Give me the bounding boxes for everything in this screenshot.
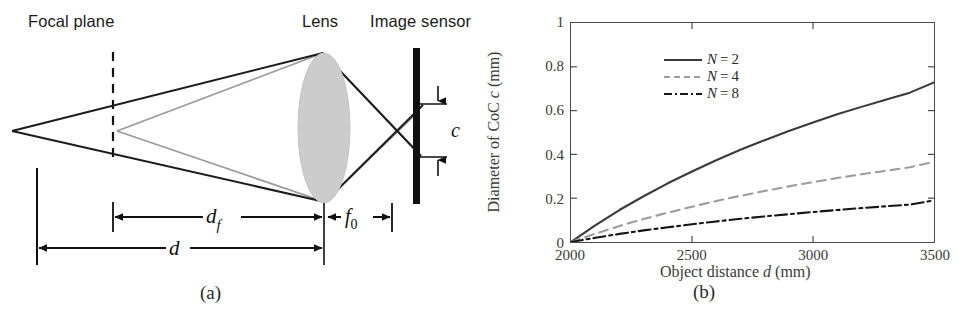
coc-label: c (451, 119, 460, 141)
optics-diagram-svg: df f0 d c (0, 0, 484, 317)
x-tick-label: 3000 (798, 247, 828, 264)
data-series-group (571, 82, 934, 242)
legend-swatch-dashdot (663, 88, 703, 100)
legend-label-n4: N = 4 (707, 68, 739, 85)
legend-swatch-solid (663, 54, 703, 66)
y-tick-label: 0.8 (545, 58, 564, 75)
x-tick-label: 3500 (920, 247, 950, 264)
legend-label-n8: N = 8 (707, 85, 739, 102)
y-axis-title: Diameter of CoC c (mm) (485, 52, 503, 213)
plot-frame: N = 2 N = 4 N = 8 (570, 22, 935, 243)
legend-item-n2: N = 2 (663, 51, 775, 68)
legend-item-n8: N = 8 (663, 85, 775, 102)
legend-label-n2: N = 2 (707, 51, 739, 68)
y-tick-label: 0 (557, 235, 565, 252)
gray-ray-bundle (117, 53, 418, 202)
panel-a-optics-diagram: Focal plane Lens Image sensor (0, 0, 484, 317)
y-tick-label: 1 (557, 14, 565, 31)
panel-b-caption: (b) (693, 281, 715, 303)
image-sensor-bar (413, 48, 420, 204)
panel-a-caption: (a) (200, 282, 221, 304)
lens-element (298, 53, 350, 203)
y-tick-label: 0.2 (545, 190, 564, 207)
figure-container: Focal plane Lens Image sensor (0, 0, 967, 317)
x-tick-label: 2500 (677, 247, 707, 264)
chart-legend: N = 2 N = 4 N = 8 (663, 49, 775, 102)
y-tick-label: 0.4 (545, 146, 564, 163)
y-tick-label: 0.6 (545, 102, 564, 119)
series-line-4 (571, 162, 934, 242)
legend-swatch-dashed (663, 71, 703, 83)
panel-b-chart: Diameter of CoC c (mm) Object distance d… (484, 0, 967, 317)
d-label: d (169, 236, 180, 260)
dark-ray-bundle (12, 53, 423, 202)
legend-item-n4: N = 4 (663, 68, 775, 85)
x-axis-title: Object distance d (mm) (660, 263, 811, 281)
